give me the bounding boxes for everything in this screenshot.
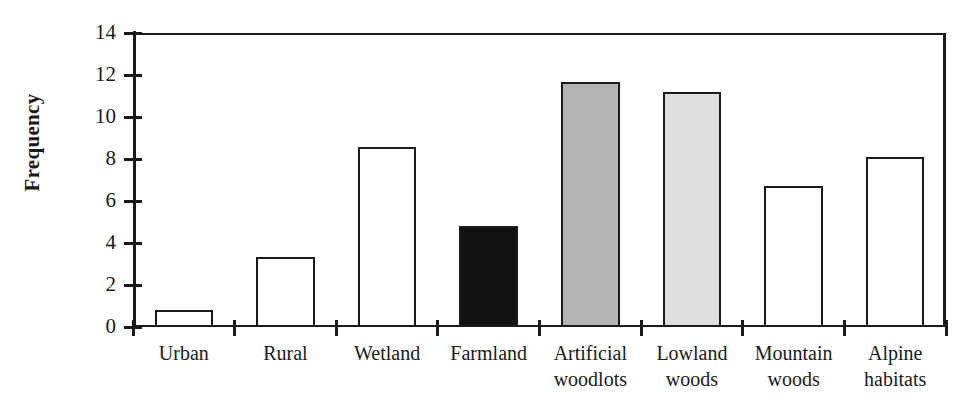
bar-chart: Frequency 02468101214 UrbanRuralWetlandF…	[0, 0, 980, 418]
x-axis-label-mountain-woods: Mountainwoods	[743, 340, 845, 392]
y-axis-tick-label: 6	[74, 190, 116, 211]
x-axis-label-line: Farmland	[438, 340, 540, 366]
y-axis-tick-label: 10	[74, 106, 116, 127]
y-axis-tick-label: 2	[74, 274, 116, 295]
bar-mountain-woods	[764, 186, 822, 327]
x-axis-label-line: Rural	[235, 340, 337, 366]
y-axis-tick-label: 8	[74, 148, 116, 169]
y-axis-tick-label: 4	[74, 232, 116, 253]
bar-farmland	[459, 226, 517, 327]
x-axis-label-line: woodlots	[540, 366, 642, 392]
bar-lowland-woods	[663, 92, 721, 327]
x-axis-label-wetland: Wetland	[336, 340, 438, 366]
y-axis-title: Frequency	[20, 63, 45, 223]
x-axis-label-line: Alpine	[844, 340, 946, 366]
x-axis-label-line: woods	[641, 366, 743, 392]
bar-wetland	[358, 147, 416, 327]
x-axis-label-lowland-woods: Lowlandwoods	[641, 340, 743, 392]
bars-layer	[133, 33, 946, 327]
x-axis-label-artificial-woodlots: Artificialwoodlots	[540, 340, 642, 392]
x-axis-label-line: Artificial	[540, 340, 642, 366]
y-axis-tick-label: 0	[74, 316, 116, 337]
x-axis-label-farmland: Farmland	[438, 340, 540, 366]
x-axis-label-line: Lowland	[641, 340, 743, 366]
bar-artificial-woodlots	[561, 82, 619, 327]
x-axis-label-line: Wetland	[336, 340, 438, 366]
y-axis-tick-label: 14	[74, 22, 116, 43]
x-axis-label-rural: Rural	[235, 340, 337, 366]
x-axis-label-line: woods	[743, 366, 845, 392]
x-axis-label-line: Mountain	[743, 340, 845, 366]
y-axis-tick-label: 12	[74, 64, 116, 85]
x-axis-label-line: Urban	[133, 340, 235, 366]
bar-alpine-habitats	[866, 157, 924, 327]
bar-urban	[155, 310, 213, 327]
x-axis-label-alpine-habitats: Alpinehabitats	[844, 340, 946, 392]
x-axis-label-urban: Urban	[133, 340, 235, 366]
x-axis-label-line: habitats	[844, 366, 946, 392]
x-axis-labels: UrbanRuralWetlandFarmlandArtificialwoodl…	[133, 340, 946, 410]
bar-rural	[256, 257, 314, 327]
